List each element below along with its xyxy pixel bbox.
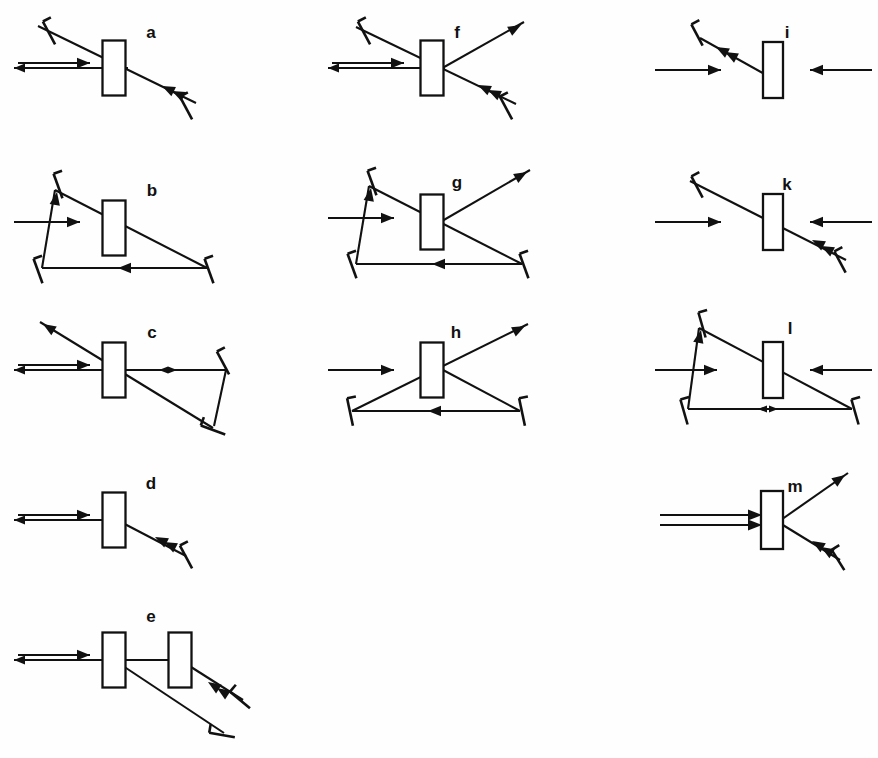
crystal-block-0 xyxy=(763,194,783,250)
bidir-head-left xyxy=(159,366,168,373)
mirror-1 xyxy=(680,397,689,424)
crystal-block-0 xyxy=(761,491,783,549)
arrow-double-beam-0 xyxy=(14,58,112,73)
panel-label-f: f xyxy=(454,23,460,42)
return-arrow-head xyxy=(14,366,25,375)
direction-arrow-head xyxy=(831,475,845,487)
crystal-block-0 xyxy=(421,343,444,398)
arrow-single-0 xyxy=(328,365,394,375)
mirror-mount-tick xyxy=(851,397,860,399)
mirror-2 xyxy=(205,256,214,284)
arrow-wide-double-0 xyxy=(660,509,762,530)
direction-arrow-head xyxy=(821,246,835,257)
mirror-mount-tick xyxy=(368,168,376,171)
arrow-head xyxy=(708,217,721,227)
mirror-1 xyxy=(519,396,528,425)
direction-arrow-head xyxy=(118,263,131,273)
mirror-mount-tick xyxy=(43,17,51,21)
mirror-surface xyxy=(832,550,845,570)
direction-arrow-head xyxy=(172,91,186,101)
beam-ray-2 xyxy=(214,370,226,426)
panel-b: b xyxy=(14,171,213,284)
figure-sheet: abcdefghiklm xyxy=(0,0,878,758)
arrow-head xyxy=(381,213,394,223)
mirror-0 xyxy=(230,685,250,709)
arrow-head xyxy=(708,65,721,75)
mirror-mount-tick xyxy=(34,256,42,259)
beam-ray-1 xyxy=(117,520,186,556)
panel-a: a xyxy=(14,17,196,119)
crystal-block-0 xyxy=(763,42,783,98)
mirror-mount-tick xyxy=(209,724,211,733)
crystal-block-0 xyxy=(103,201,126,256)
arrow-head-2 xyxy=(172,91,186,101)
mirror-mount-tick xyxy=(698,310,707,312)
optical-diagram-canvas: abcdefghiklm xyxy=(0,0,878,758)
mirror-2 xyxy=(851,397,860,424)
panel-l: l xyxy=(655,310,872,424)
direction-arrow-head xyxy=(428,406,441,416)
mirror-surface xyxy=(230,692,250,709)
arrow-head-2 xyxy=(118,263,131,273)
direction-arrow-head xyxy=(43,324,57,335)
mirror-surface xyxy=(680,400,687,425)
arrow-head-3 xyxy=(513,172,527,183)
arrow-single-0 xyxy=(655,217,721,227)
beam-ray-0 xyxy=(55,190,207,268)
panel-label-l: l xyxy=(788,319,793,338)
arrow-head xyxy=(381,365,394,375)
beam-ray-0 xyxy=(369,186,522,264)
beam-ray-3 xyxy=(430,170,530,228)
panel-c: c xyxy=(14,322,229,434)
mirror-mount-tick xyxy=(519,396,528,398)
arrow-single-0 xyxy=(655,365,717,375)
mirror-mount-tick xyxy=(358,17,366,21)
crystal-block-1 xyxy=(169,633,192,688)
arrow-single-0 xyxy=(655,65,721,75)
arrow-head xyxy=(810,217,823,227)
crystal-block-0 xyxy=(103,493,126,548)
panel-label-i: i xyxy=(785,23,790,42)
mirror-surface xyxy=(834,251,845,272)
mirror-surface xyxy=(520,254,529,278)
mirror-surface xyxy=(180,546,192,569)
mirror-1 xyxy=(180,92,192,119)
arrow-double-beam-0 xyxy=(14,360,112,375)
arrow-head-1 xyxy=(831,475,845,487)
panel-label-g: g xyxy=(452,173,462,192)
panel-i: i xyxy=(655,20,872,98)
arrow-single-1 xyxy=(810,65,872,75)
direction-arrow-head xyxy=(725,52,739,63)
mirror-mount-tick xyxy=(205,256,213,259)
arrow-head xyxy=(810,365,823,375)
arrow-single-0 xyxy=(14,217,80,227)
mirror-0 xyxy=(691,20,702,45)
arrow-head-1 xyxy=(43,324,57,335)
bidir-head-right xyxy=(168,366,177,373)
crystal-block-0 xyxy=(421,195,444,250)
arrow-single-1 xyxy=(810,217,872,227)
arrow-bidirectional-2 xyxy=(159,366,177,373)
panel-g: g xyxy=(328,168,530,279)
panel-label-b: b xyxy=(147,181,157,200)
crystal-block-0 xyxy=(103,41,126,96)
panel-label-h: h xyxy=(451,323,461,342)
mirror-mount-tick xyxy=(230,685,236,692)
mirror-mount-tick xyxy=(691,20,699,24)
panel-label-e: e xyxy=(146,607,155,626)
mirror-mount-tick xyxy=(348,251,356,254)
mirror-0 xyxy=(43,17,55,44)
mirror-mount-tick xyxy=(201,417,204,425)
incident-arrow-head xyxy=(77,650,90,660)
bidir-head-left xyxy=(758,405,767,412)
arrow-head-3 xyxy=(821,246,835,257)
arrow-double-beam-0 xyxy=(14,650,112,665)
incident-arrow-head xyxy=(77,58,90,68)
crystal-block-0 xyxy=(421,41,444,96)
direction-arrow-head xyxy=(511,326,525,337)
arrow-head xyxy=(810,65,823,75)
arrow-head xyxy=(67,217,80,227)
panel-e: e xyxy=(14,607,250,737)
mirror-mount-tick xyxy=(180,541,188,545)
incident-arrow-head xyxy=(77,510,90,520)
